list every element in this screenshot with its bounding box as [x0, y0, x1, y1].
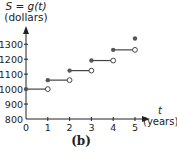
x-tick-label: 2: [67, 122, 73, 133]
step-chart: 0123458009001000110012001300: [0, 0, 177, 155]
x-axis-label: t (years): [143, 105, 177, 127]
open-point: [133, 47, 138, 52]
open-point: [67, 78, 72, 83]
x-tick-label: 5: [132, 122, 138, 133]
x-tick-label: 4: [110, 122, 116, 133]
y-tick-label: 800: [5, 114, 23, 125]
y-tick-label: 1300: [0, 39, 23, 50]
x-axis-unit: (years): [143, 116, 177, 127]
y-tick-label: 1100: [0, 69, 23, 80]
closed-point: [133, 36, 137, 40]
x-tick-label: 1: [45, 122, 51, 133]
open-point: [45, 87, 50, 92]
closed-point: [67, 68, 71, 72]
x-tick-label: 3: [88, 122, 94, 133]
closed-point: [111, 48, 115, 52]
figure-caption: (b): [64, 134, 98, 148]
y-tick-label: 1000: [0, 84, 23, 95]
open-point: [111, 58, 116, 63]
open-point: [89, 68, 94, 73]
y-tick-label: 900: [5, 99, 23, 110]
x-tick-label: 0: [23, 122, 29, 133]
closed-point: [24, 87, 28, 91]
x-axis-variable: t: [143, 105, 177, 116]
y-axis-arrow-icon: [23, 26, 29, 34]
closed-point: [89, 58, 93, 62]
closed-point: [46, 78, 50, 82]
y-tick-label: 1200: [0, 54, 23, 65]
